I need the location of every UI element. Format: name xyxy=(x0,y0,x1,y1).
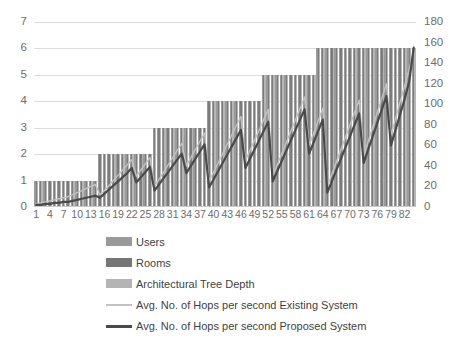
legend-swatch-rooms-icon xyxy=(106,258,132,267)
y-axis-right-tick-label: 100 xyxy=(424,98,443,110)
x-axis-tick-label: 16 xyxy=(99,209,111,220)
x-axis-tick-label: 7 xyxy=(61,209,67,220)
legend-swatch-users-icon xyxy=(106,237,132,246)
x-axis-tick-label: 64 xyxy=(317,209,329,220)
y-axis-left-tick-label: 1 xyxy=(21,175,27,187)
x-axis-tick-label: 1 xyxy=(33,209,39,220)
y-axis-left-tick-label: 4 xyxy=(21,95,27,107)
x-axis-tick-label: 76 xyxy=(372,209,384,220)
x-axis-tick-label: 79 xyxy=(385,209,397,220)
x-axis-ticks: 1471013161922252831343740434649525558616… xyxy=(34,209,416,225)
y-axis-right-tick-label: 140 xyxy=(424,57,443,69)
x-axis-tick-label: 49 xyxy=(249,209,261,220)
x-axis-tick-label: 37 xyxy=(194,209,206,220)
x-axis-tick-label: 61 xyxy=(303,209,315,220)
y-axis-right-tick-label: 120 xyxy=(424,78,443,90)
x-axis-tick-label: 10 xyxy=(71,209,83,220)
legend-swatch-depth-icon xyxy=(106,279,132,288)
legend-item-label: Architectural Tree Depth xyxy=(136,278,255,290)
x-axis-tick-label: 82 xyxy=(399,209,411,220)
x-axis-tick-label: 46 xyxy=(235,209,247,220)
plot-area: 01234567 020406080100120140160180 xyxy=(34,22,416,207)
x-axis-tick-label: 19 xyxy=(112,209,124,220)
chart-legend: UsersRoomsArchitectural Tree DepthAvg. N… xyxy=(106,231,406,336)
legend-item-label: Rooms xyxy=(136,257,171,269)
x-axis-tick-label: 55 xyxy=(276,209,288,220)
x-axis-tick-label: 40 xyxy=(208,209,220,220)
legend-item-label: Avg. No. of Hops per second Proposed Sys… xyxy=(136,320,366,332)
x-axis-tick-label: 13 xyxy=(85,209,97,220)
x-axis-tick-label: 25 xyxy=(140,209,152,220)
line-existing-system xyxy=(36,51,413,204)
x-axis-tick-label: 22 xyxy=(126,209,138,220)
line-series-container xyxy=(34,22,416,207)
legend-item[interactable]: Avg. No. of Hops per second Proposed Sys… xyxy=(106,315,406,336)
y-axis-left-tick-label: 3 xyxy=(21,122,27,134)
x-axis-baseline xyxy=(34,206,416,207)
y-axis-right-tick-label: 180 xyxy=(424,16,443,28)
y-axis-right-tick-label: 160 xyxy=(424,37,443,49)
legend-item[interactable]: Users xyxy=(106,231,406,252)
x-axis-tick-label: 52 xyxy=(262,209,274,220)
x-axis-tick-label: 70 xyxy=(344,209,356,220)
y-axis-right-tick-label: 60 xyxy=(424,139,437,151)
chart-root: 01234567 020406080100120140160180 147101… xyxy=(0,0,468,350)
x-axis-tick-label: 43 xyxy=(221,209,233,220)
y-axis-left-tick-label: 6 xyxy=(21,42,27,54)
x-axis-tick-label: 4 xyxy=(47,209,53,220)
legend-item[interactable]: Avg. No. of Hops per second Existing Sys… xyxy=(106,294,406,315)
legend-swatch-proposed-icon xyxy=(106,325,132,328)
x-axis-tick-label: 28 xyxy=(153,209,165,220)
y-axis-right-tick-label: 40 xyxy=(424,160,437,172)
y-axis-left-tick-label: 5 xyxy=(21,69,27,81)
x-axis-tick-label: 67 xyxy=(331,209,343,220)
y-axis-left-tick-label: 0 xyxy=(21,201,27,213)
plot-area-wrapper: 01234567 020406080100120140160180 xyxy=(0,0,468,228)
legend-swatch-existing-icon xyxy=(106,304,132,306)
legend-item-label: Avg. No. of Hops per second Existing Sys… xyxy=(136,299,358,311)
y-axis-left-tick-label: 2 xyxy=(21,148,27,160)
x-axis-tick-label: 34 xyxy=(181,209,193,220)
legend-item[interactable]: Rooms xyxy=(106,252,406,273)
y-axis-right-tick-label: 20 xyxy=(424,180,437,192)
x-axis-tick-label: 58 xyxy=(290,209,302,220)
x-axis-tick-label: 73 xyxy=(358,209,370,220)
y-axis-left-tick-label: 7 xyxy=(21,16,27,28)
y-axis-right-tick-label: 80 xyxy=(424,119,437,131)
legend-item-label: Users xyxy=(136,236,165,248)
x-axis-tick-label: 31 xyxy=(167,209,179,220)
line-proposed-system xyxy=(36,48,413,205)
legend-item[interactable]: Architectural Tree Depth xyxy=(106,273,406,294)
y-axis-right-tick-label: 0 xyxy=(424,201,430,213)
